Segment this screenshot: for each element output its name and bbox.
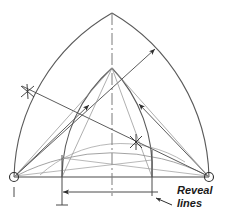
chord-left-reveal-to-inner-apex xyxy=(62,68,112,177)
chord-right-to-left-reveal xyxy=(62,158,208,176)
reveal-label-line1: Reveal xyxy=(177,184,213,196)
tick-cross-lower-right xyxy=(130,134,142,150)
outer-arc-right xyxy=(112,13,209,177)
chord-right-reveal-to-inner-apex xyxy=(112,68,152,177)
reveal-label-group: Reveal lines xyxy=(177,184,213,209)
reveal-leader-group xyxy=(156,198,172,205)
inner-arch-group xyxy=(62,68,152,177)
drawing-canvas: Reveal lines xyxy=(0,0,225,217)
reveal-leader-line xyxy=(156,198,172,205)
outer-arc-left xyxy=(14,13,112,177)
arch-construction-figure: Reveal lines xyxy=(0,0,225,217)
chord-left-to-right-reveal xyxy=(15,160,152,176)
radius-line-left-to-upper-right xyxy=(15,49,155,176)
dimension-group xyxy=(14,187,158,197)
chord-right-to-inner-apex xyxy=(112,68,208,176)
reveal-label-line2: lines xyxy=(177,197,202,209)
